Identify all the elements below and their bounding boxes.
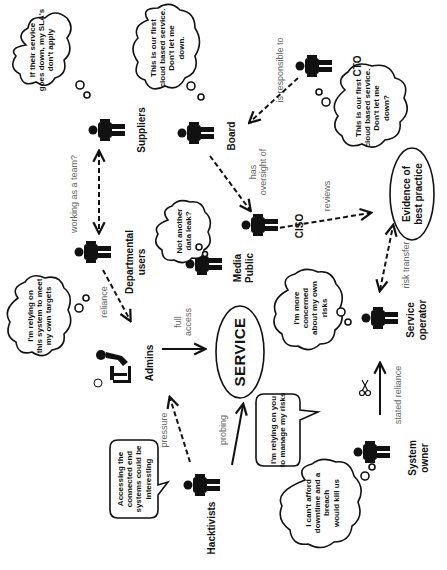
- scissors-icon: [360, 380, 371, 396]
- speech-line: connected end: [125, 445, 134, 512]
- thought-system-owner: I can't afford downtime and a breach wou…: [304, 473, 341, 533]
- evidence-of-best-practice-label: Evidence of best practice: [401, 163, 424, 225]
- edge-label-risk-transfer: risk transfer: [401, 241, 411, 288]
- actor-ciso: CISO: [294, 214, 306, 238]
- thought-service-operator: I'm more concerned about my own risks: [292, 281, 329, 335]
- actor-board: Board: [226, 122, 238, 151]
- actor-departmental-users: Departmental users: [124, 230, 147, 294]
- edge-label-reliance: reliance: [99, 286, 109, 318]
- actor-service-operator: Service operator: [405, 300, 428, 341]
- service-operator-line-2: operator: [416, 300, 428, 341]
- thought-line: Not another: [175, 209, 184, 254]
- thought-clouds: [7, 4, 407, 547]
- speech-hacktivists: Accessing the connected end systems coul…: [116, 445, 153, 512]
- thought-line: my own targets: [45, 279, 54, 354]
- thought-line: would kill us: [331, 473, 340, 533]
- thought-line: down?: [381, 69, 390, 148]
- thought-departmental-users: I'm relying on this system to meet my ow…: [26, 279, 54, 354]
- system-owner-person-icon: [354, 441, 391, 463]
- board-person-icon: [178, 122, 215, 144]
- thought-line: breach: [322, 473, 331, 533]
- speech-line: Accessing the: [116, 445, 125, 512]
- media-public-line-2: Public: [243, 253, 255, 283]
- thought-board: This is our first cloud based service. D…: [149, 9, 186, 88]
- actor-suppliers: Suppliers: [136, 107, 148, 153]
- departmental-users-line-2: users: [135, 230, 147, 294]
- thought-line: don't apply: [47, 9, 56, 91]
- thought-line: goes down, my SLA's: [37, 9, 46, 91]
- suppliers-person-icon: [89, 119, 126, 141]
- thought-suppliers: If their service goes down, my SLA's don…: [28, 9, 56, 91]
- media-public-line-1: Media: [232, 253, 244, 283]
- speech-line: to manage my risks: [278, 393, 287, 468]
- speech-line: interesting: [143, 445, 152, 512]
- ciso-person-icon: [242, 214, 279, 236]
- has-line: has: [248, 149, 258, 196]
- thought-line: This is our first: [149, 9, 158, 88]
- thought-line: Don't let me: [372, 69, 381, 148]
- cto-person-icon: [296, 55, 333, 77]
- admin-desk-icon: [94, 350, 131, 387]
- evidence-line-2: best practice: [412, 163, 424, 225]
- thought-line: this system to meet: [35, 279, 44, 354]
- departmental-users-person-icon: [75, 241, 112, 263]
- access-line: access: [183, 308, 193, 336]
- edge-label-is-responsible-to: is responsible to: [275, 37, 285, 102]
- oversight-of-line: oversight of: [258, 149, 268, 196]
- hacktivists-person-icon: [184, 474, 221, 496]
- thought-line: Don't let me: [167, 9, 176, 88]
- edge-label-full-access: full access: [173, 308, 194, 336]
- departmental-users-line-1: Departmental: [124, 230, 136, 294]
- edge-label-reviews: reviews: [322, 181, 332, 212]
- speech-system-owner: I'm relying on you to manage my risks: [269, 393, 287, 468]
- actor-hacktivists: Hacktivists: [206, 502, 218, 555]
- evidence-line-1: Evidence of: [401, 163, 413, 225]
- stakeholder-diagram: SERVICE Evidence of best practice Suppli…: [0, 0, 447, 570]
- thought-line: I'm more: [292, 281, 301, 335]
- full-line: full: [173, 308, 183, 336]
- system-owner-line-1: System: [407, 440, 419, 476]
- thought-cto: This is our first cloud based service. D…: [354, 69, 391, 148]
- thought-line: This is our first: [354, 69, 363, 148]
- edge-label-has-oversight-of: has oversight of: [248, 149, 269, 196]
- thought-line: I'm relying on: [26, 279, 35, 354]
- edge-label-pressure: pressure: [159, 412, 169, 447]
- actor-admins: Admins: [144, 345, 156, 382]
- thought-line: down.: [176, 9, 185, 88]
- edge-label-stated-reliance: stated reliance: [393, 366, 403, 425]
- actor-media-public: Media Public: [232, 253, 255, 283]
- system-owner-line-2: owner: [418, 440, 430, 476]
- thought-line: cloud based service.: [158, 9, 167, 88]
- service-operator-line-1: Service: [405, 300, 417, 341]
- thought-media-public: Not another data leak?: [175, 209, 193, 254]
- edge-label-probing: probing: [218, 415, 228, 445]
- speech-line: systems could be: [134, 445, 143, 512]
- thought-line: cloud based service.: [363, 69, 372, 148]
- thought-line: downtime and a: [313, 473, 322, 533]
- thought-line: data leak?: [184, 209, 193, 254]
- thought-line: If their service: [28, 9, 37, 91]
- thought-line: concerned: [301, 281, 310, 335]
- thought-line: I can't afford: [304, 473, 313, 533]
- actor-system-owner: System owner: [407, 440, 430, 476]
- service-label: SERVICE: [231, 317, 248, 386]
- service-operator-person-icon: [362, 307, 399, 329]
- thought-line: about my own: [310, 281, 319, 335]
- edge-label-working-as-a-team: working as a team?: [69, 155, 79, 233]
- speech-line: I'm relying on you: [269, 393, 278, 468]
- thought-line: risks: [319, 281, 328, 335]
